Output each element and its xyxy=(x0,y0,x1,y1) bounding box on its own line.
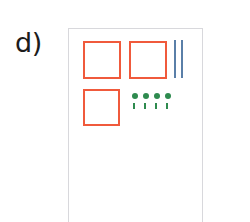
green-tick xyxy=(133,103,135,109)
green-dot xyxy=(143,93,149,99)
figure-root: d) xyxy=(0,0,250,222)
green-dot xyxy=(132,93,138,99)
blue-vertical-line xyxy=(181,40,183,78)
glyph-layer xyxy=(69,29,202,222)
green-tick xyxy=(166,103,168,109)
red-square xyxy=(83,89,120,126)
green-dot xyxy=(165,93,171,99)
green-tick xyxy=(144,103,146,109)
panel-frame xyxy=(68,28,203,222)
blue-vertical-line xyxy=(174,40,176,78)
panel-label: d) xyxy=(15,26,42,60)
red-square xyxy=(129,41,167,79)
green-tick xyxy=(155,103,157,109)
green-dot xyxy=(154,93,160,99)
red-square xyxy=(83,41,121,79)
